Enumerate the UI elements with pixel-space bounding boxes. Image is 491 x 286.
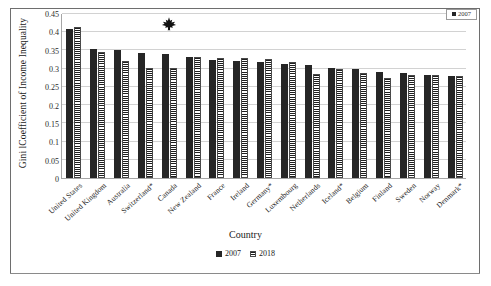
legend-label: 2007 [225,249,241,258]
bar-2018 [265,59,272,178]
bar-group [324,14,348,178]
bar-2007 [352,69,359,178]
chart-figure: Gini lCoefficient of Income Inequality 0… [0,0,491,286]
bar-group [276,14,300,178]
bar-2018 [170,68,177,178]
bar-2007 [448,76,455,178]
x-axis-tick-label: Sweden [393,181,417,204]
x-axis-title: Country [0,229,491,240]
bar-group [133,14,157,178]
y-axis-tick-label: 0.4 [37,28,59,37]
plot-area [61,14,466,179]
bar-2018 [122,61,129,178]
bar-group [205,14,229,178]
bars-layer [62,14,466,178]
bar-group [110,14,134,178]
x-axis-tick-label: Finland [370,181,394,204]
bar-2018 [313,74,320,178]
bar-2018 [408,75,415,178]
x-axis-tick-label: Belgium [344,181,370,206]
bar-2007 [66,29,73,178]
y-axis-tick-label: 0.15 [37,120,59,129]
bar-2018 [336,69,343,178]
bar-group [157,14,181,178]
bar-2007 [114,50,121,178]
bar-group [86,14,110,178]
y-axis-tick-label: 0.25 [37,83,59,92]
bar-2018 [289,62,296,178]
bar-group [62,14,86,178]
x-axis-tick-label: France [205,181,227,202]
bar-group [348,14,372,178]
bar-2018 [241,58,248,178]
bar-group [181,14,205,178]
corner-legend-box: 2007 [446,9,477,20]
chart-legend: 20072018 [0,249,491,258]
bar-group [253,14,277,178]
bar-2018 [74,27,81,178]
bar-2018 [217,58,224,178]
bar-group [443,14,467,178]
bar-2018 [98,52,105,178]
bar-group [419,14,443,178]
bar-2018 [360,73,367,178]
bar-2007 [233,61,240,178]
y-axis-title: Gini lCoefficient of Income Inequality [18,8,28,178]
bar-2018 [432,75,439,179]
legend-swatch-icon [216,251,222,257]
bar-2018 [384,78,391,178]
bar-group [300,14,324,178]
bar-2007 [90,49,97,178]
x-axis-tick-labels: United StatesUnited KingdomAustraliaSwit… [61,181,468,227]
bar-2007 [376,72,383,178]
y-axis-tick-label: 0.2 [37,101,59,110]
bar-2007 [186,57,193,178]
bar-2007 [424,75,431,178]
bar-2018 [456,76,463,178]
maple-leaf-icon [161,16,177,32]
y-axis-tick-label: 0.35 [37,46,59,55]
y-axis-tick-label: 0.05 [37,156,59,165]
bar-2007 [162,54,169,178]
bar-2007 [305,65,312,178]
page-rule-divider [10,273,480,274]
legend-item: 2007 [216,249,241,258]
bar-2007 [209,60,216,178]
bar-group [229,14,253,178]
y-axis-tick-label: 0 [37,175,59,184]
plot-wrapper: 00.050.10.150.20.250.30.350.40.45 [38,14,468,179]
y-axis-tick-label: 0.3 [37,65,59,74]
y-axis-tick-label: 0.45 [37,10,59,19]
bar-2007 [138,53,145,178]
y-axis-tick-label: 0.1 [37,138,59,147]
x-axis-tick-label: Iceland* [320,181,346,206]
legend-item: 2018 [250,249,275,258]
bar-group [372,14,396,178]
bar-2007 [400,73,407,178]
bar-2007 [281,64,288,178]
legend-label: 2018 [259,249,275,258]
bar-2007 [257,62,264,178]
corner-legend-swatch-icon [452,12,456,16]
bar-group [396,14,420,178]
bar-2018 [194,57,201,178]
legend-swatch-icon [250,251,256,257]
corner-legend-label: 2007 [458,11,471,18]
bar-2007 [328,68,335,178]
bar-2018 [146,68,153,178]
